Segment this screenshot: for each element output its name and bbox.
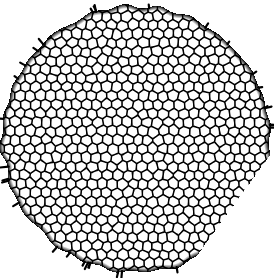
figure-root: Cellular honeycomb disc micrograph Binar… xyxy=(0,0,274,278)
cellular-disc-image xyxy=(0,0,274,278)
